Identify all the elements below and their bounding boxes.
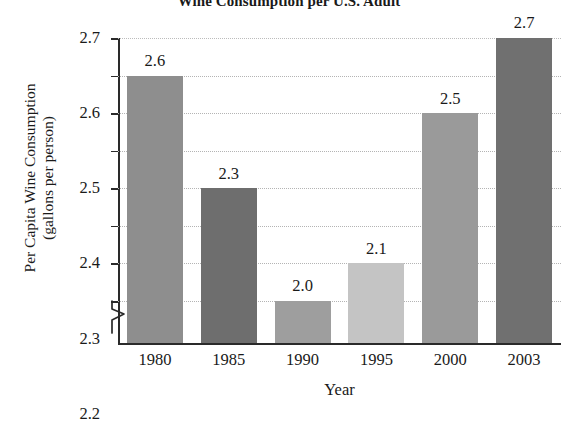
x-axis-tick-label: 2003 [508,350,541,370]
y-axis-tick-label: 2.4 [79,253,100,273]
x-axis-line [118,343,561,345]
y-axis-line [118,38,120,345]
gridline [118,38,561,39]
y-axis-tick-label: 2.6 [79,103,100,123]
bar-2003[interactable]: 2.72003 [496,36,552,343]
y-axis-tick: 2.4 [111,151,118,153]
y-axis-tick-label: 2.5 [79,178,100,198]
x-axis-tick-label: 1980 [138,350,171,370]
bar-value-label: 2.1 [366,239,387,259]
bar-value-label: 2.0 [292,276,313,296]
bar-rect [201,188,257,343]
gridline [118,263,561,264]
chart-figure: Wine Consumption per U.S. Adult Per Capi… [0,0,578,421]
bar-value-label: 2.6 [145,51,166,71]
x-axis-tick-label: 2000 [434,350,467,370]
bar-2000[interactable]: 2.52000 [422,36,478,343]
y-axis-break-icon [109,300,129,334]
bar-rect [422,113,478,343]
x-axis-tick-label: 1985 [212,350,245,370]
gridline [118,151,561,152]
bar-rect [127,76,183,344]
plot-area: 2.02.12.22.32.42.52.62.7 2.619802.319852… [118,38,561,345]
bar-rect [496,38,552,343]
bar-value-label: 2.5 [440,89,461,109]
bar-1995[interactable]: 2.11995 [348,36,404,343]
gridline [118,188,561,189]
y-axis-tick-label: 2.7 [79,28,100,48]
y-axis-tick-label: 2.3 [79,328,100,348]
y-axis-tick: 2.6 [111,76,118,78]
y-axis-tick: 2.2 [111,226,118,228]
bar-value-label: 2.7 [514,13,535,33]
gridline [118,226,561,227]
bar-rect [275,301,331,343]
x-axis-tick-label: 1995 [360,350,393,370]
gridline [118,76,561,77]
bar-1980[interactable]: 2.61980 [127,36,183,343]
gridline [118,113,561,114]
bar-value-label: 2.3 [218,164,239,184]
y-axis-tick: 2.7 [111,38,118,40]
y-axis-title: Per Capita Wine Consumption (gallons per… [21,28,57,328]
chart-title: Wine Consumption per U.S. Adult [0,0,578,10]
x-axis-tick-label: 1990 [286,350,319,370]
y-axis-tick: 2.5 [111,113,118,115]
x-axis-title: Year [118,380,561,400]
y-axis-tick: 2.1 [111,263,118,265]
bar-1990[interactable]: 2.01990 [275,36,331,343]
y-axis-tick: 2.3 [111,188,118,190]
bar-1985[interactable]: 2.31985 [201,36,257,343]
bar-rect [348,263,404,343]
gridline [118,301,561,302]
y-axis-tick-label: 2.2 [79,403,100,421]
